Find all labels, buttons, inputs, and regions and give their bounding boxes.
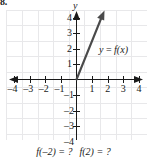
caption-question-1: f(–2) = ?	[36, 146, 72, 157]
y-tick-label: –1	[64, 90, 74, 100]
ray-segment	[77, 18, 102, 80]
x-tick-label: 3	[121, 84, 126, 94]
y-tick-label: –4	[64, 137, 74, 147]
caption-question-2: f(2) = ?	[80, 146, 111, 157]
y-tick-label: 4	[67, 13, 72, 23]
x-tick-label: –4	[8, 84, 18, 94]
y-axis-name: y	[73, 1, 77, 11]
x-axis-right-arrow	[134, 76, 143, 83]
y-tick-label: –2	[64, 106, 74, 116]
y-tick-label: 3	[67, 28, 72, 38]
x-tick-label: 4	[136, 84, 141, 94]
x-tick-label: –3	[23, 84, 33, 94]
x-tick-label: 2	[105, 84, 110, 94]
math-figure: 8. y 4321–1–	[0, 0, 147, 163]
x-tick-label: –1	[54, 84, 64, 94]
function-label: y = f(x)	[99, 45, 128, 55]
x-axis-left-arrow	[9, 76, 18, 83]
function-label-fx: f(x)	[114, 44, 128, 55]
x-tick-label: –2	[39, 84, 49, 94]
x-tick-label: 1	[90, 84, 95, 94]
figure-caption: f(–2) = ?f(2) = ?	[0, 146, 147, 157]
y-tick-label: 1	[67, 59, 72, 69]
y-tick-label: –3	[64, 121, 74, 131]
y-tick-label: 2	[67, 44, 72, 54]
